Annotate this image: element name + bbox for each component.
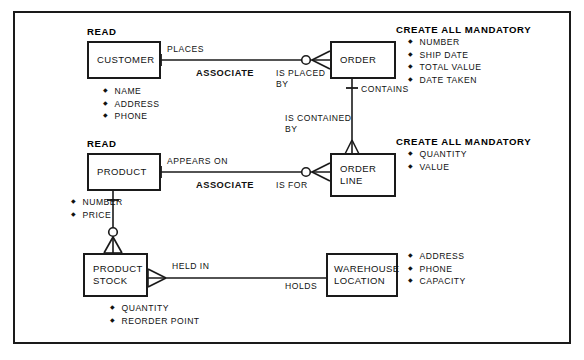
warehouse-attributes: ADDRESS PHONE CAPACITY xyxy=(408,250,466,288)
attribute-item: NUMBER xyxy=(71,196,123,209)
entity-product-stock[interactable]: PRODUCT STOCK xyxy=(83,253,148,297)
attribute-item: REORDER POINT xyxy=(110,315,200,328)
entity-order-name: ORDER xyxy=(340,54,394,66)
entity-warehouse-location[interactable]: WAREHOUSE LOCATION xyxy=(326,253,398,297)
rel-annotation-associate-2: ASSOCIATE xyxy=(196,180,254,191)
customer-attributes: NAME ADDRESS PHONE xyxy=(103,85,160,123)
rel-label-is-placed-by-1: IS PLACED xyxy=(276,68,325,79)
rel-label-held-in: HELD IN xyxy=(172,261,209,272)
attribute-item: PRICE xyxy=(71,209,123,222)
entity-product[interactable]: PRODUCT xyxy=(87,153,161,191)
product-attributes: NUMBER PRICE xyxy=(71,196,123,221)
rel-label-places: PLACES xyxy=(167,44,204,55)
entity-product-stock-name-1: PRODUCT xyxy=(93,263,146,275)
attribute-item: DATE TAKEN xyxy=(408,74,482,87)
attribute-item: QUANTITY xyxy=(408,148,467,161)
diagram-canvas: READ CUSTOMER NAME ADDRESS PHONE CREATE … xyxy=(0,0,584,360)
attribute-item: TOTAL VALUE xyxy=(408,61,482,74)
attribute-item: PHONE xyxy=(103,110,160,123)
orderline-attributes: QUANTITY VALUE xyxy=(408,148,467,173)
rel-label-is-contained-by-2: BY xyxy=(285,124,297,135)
attribute-item: VALUE xyxy=(408,161,467,174)
rel-label-appears-on: APPEARS ON xyxy=(167,156,228,167)
entity-product-stock-name-2: STOCK xyxy=(93,275,146,287)
attribute-item: NUMBER xyxy=(408,36,482,49)
rel-label-is-contained-by-1: IS CONTAINED xyxy=(285,113,351,124)
entity-order-line[interactable]: ORDER LINE xyxy=(330,153,396,197)
customer-header: READ xyxy=(87,26,117,37)
order-header: CREATE ALL MANDATORY xyxy=(396,24,531,35)
attribute-item: SHIP DATE xyxy=(408,49,482,62)
rel-label-holds: HOLDS xyxy=(285,281,317,292)
orderline-header: CREATE ALL MANDATORY xyxy=(396,136,531,147)
entity-customer-name: CUSTOMER xyxy=(97,54,159,66)
product-header: READ xyxy=(87,138,117,149)
order-attributes: NUMBER SHIP DATE TOTAL VALUE DATE TAKEN xyxy=(408,36,482,86)
rel-annotation-associate-1: ASSOCIATE xyxy=(196,68,254,79)
entity-order-line-name-2: LINE xyxy=(340,175,394,187)
entity-warehouse-name-2: LOCATION xyxy=(334,275,396,287)
entity-product-name: PRODUCT xyxy=(97,166,159,178)
rel-label-is-for: IS FOR xyxy=(276,180,308,191)
rel-label-is-placed-by-2: BY xyxy=(276,79,288,90)
entity-warehouse-name-1: WAREHOUSE xyxy=(334,263,396,275)
attribute-item: ADDRESS xyxy=(103,98,160,111)
attribute-item: NAME xyxy=(103,85,160,98)
entity-order[interactable]: ORDER xyxy=(330,41,396,79)
productstock-attributes: QUANTITY REORDER POINT xyxy=(110,302,200,327)
entity-customer[interactable]: CUSTOMER xyxy=(87,41,161,79)
rel-label-contains: CONTAINS xyxy=(361,84,409,95)
attribute-item: QUANTITY xyxy=(110,302,200,315)
attribute-item: CAPACITY xyxy=(408,275,466,288)
attribute-item: PHONE xyxy=(408,263,466,276)
entity-order-line-name-1: ORDER xyxy=(340,163,394,175)
attribute-item: ADDRESS xyxy=(408,250,466,263)
